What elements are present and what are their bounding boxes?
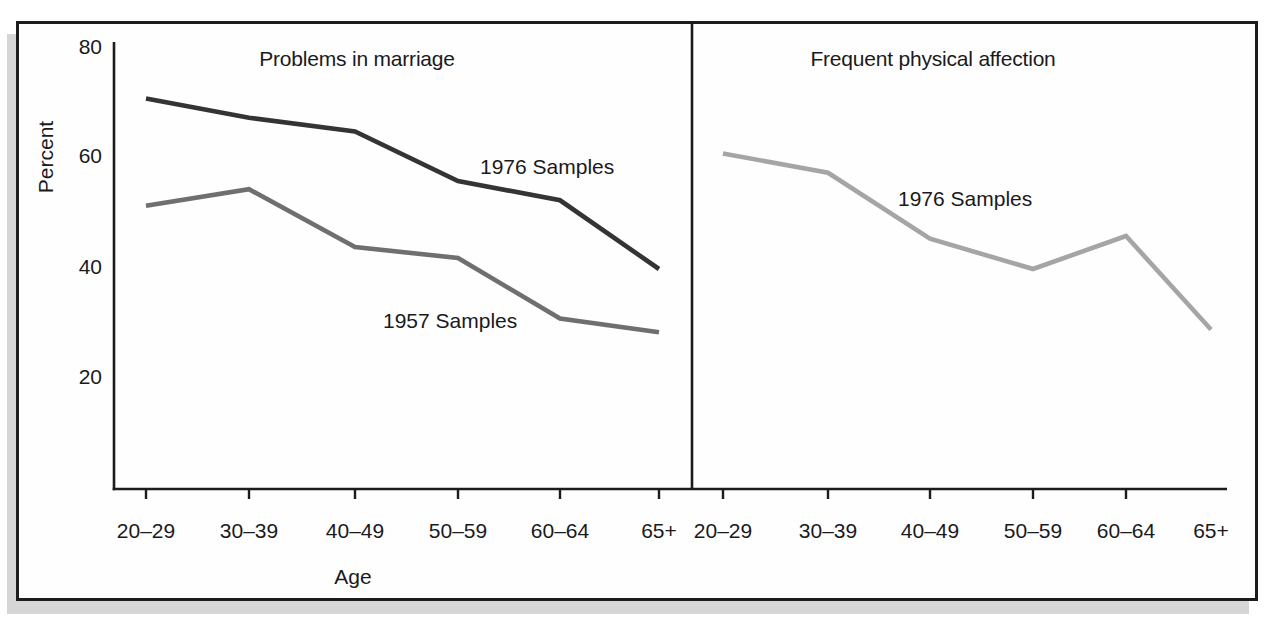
panel-title-affection: Frequent physical affection [810,48,1055,70]
y-tick-label-80: 80 [30,36,102,58]
y-axis-title: Percent [35,121,57,193]
panel-title-problems: Problems in marriage [259,48,455,70]
figure-page: 80 60 40 20 Percent Problems in marriage… [0,0,1274,619]
x-tick-right-20-29: 20–29 [668,520,778,542]
x-tick-right-30-39: 30–39 [773,520,883,542]
x-tick-left-50-59: 50–59 [403,520,513,542]
series-label-problems-1976: 1976 Samples [480,156,614,178]
figure-frame [16,21,1258,601]
series-label-problems-1957: 1957 Samples [383,310,517,332]
x-axis-title: Age [334,566,371,588]
y-tick-label-40: 40 [30,256,102,278]
x-tick-right-40-49: 40–49 [875,520,985,542]
x-tick-left-60-64: 60–64 [505,520,615,542]
x-tick-left-30-39: 30–39 [194,520,304,542]
x-tick-left-40-49: 40–49 [300,520,410,542]
series-label-affection-1976: 1976 Samples [898,188,1032,210]
x-tick-right-65plus: 65+ [1156,520,1266,542]
y-tick-label-20: 20 [30,366,102,388]
x-tick-left-20-29: 20–29 [91,520,201,542]
